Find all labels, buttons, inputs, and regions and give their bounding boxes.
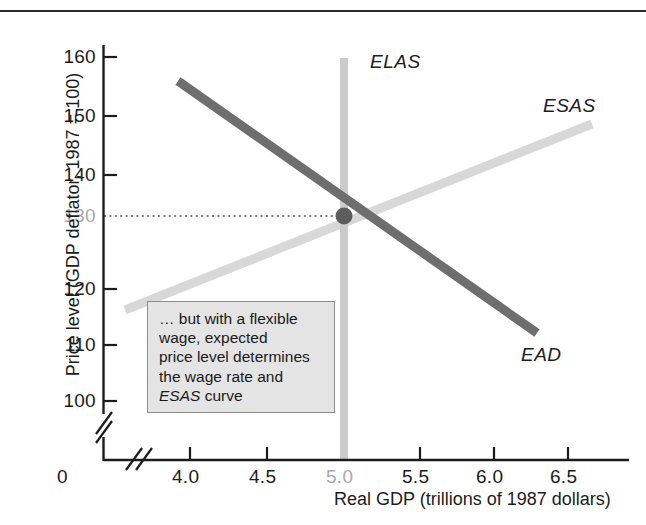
plot-canvas <box>0 0 646 525</box>
curve-label-elas: ELAS <box>370 51 421 73</box>
curve-label-ead: EAD <box>521 344 562 366</box>
annotation-line-1: … but with a flexible <box>159 309 325 328</box>
curve-label-esas: ESAS <box>543 95 596 117</box>
annotation-line-5: ESAS curve <box>159 386 325 405</box>
curve-esas <box>125 124 592 310</box>
y-tick-label-100: 100 <box>42 390 96 412</box>
y-axis-title: Price level (GDP deflator, 1987 = 100) <box>63 60 84 390</box>
annotation-esas-term: ESAS <box>159 387 200 404</box>
equilibrium-point <box>336 208 353 225</box>
curve-ead <box>178 81 537 333</box>
x-axis-title: Real GDP (trillions of 1987 dollars) <box>334 489 611 510</box>
annotation-line-2: wage, expected <box>159 328 325 347</box>
x-tick-label-5-5: 5.5 <box>402 466 429 488</box>
annotation-line-4: the wage rate and <box>159 367 325 386</box>
chart-figure: 160 150 140 130 120 110 100 0 4.0 4.5 5.… <box>0 0 646 525</box>
x-tick-label-4-5: 4.5 <box>249 466 276 488</box>
annotation-textbox: … but with a flexible wage, expected pri… <box>147 301 335 413</box>
x-tick-label-4-0: 4.0 <box>172 466 199 488</box>
x-tick-label-6-0: 6.0 <box>476 466 503 488</box>
annotation-line-3: price level determines <box>159 347 325 366</box>
annotation-line-5-rest: curve <box>200 387 242 404</box>
x-tick-label-5-0: 5.0 <box>326 466 353 488</box>
x-origin-label: 0 <box>57 466 68 488</box>
x-tick-label-6-5: 6.5 <box>550 466 577 488</box>
